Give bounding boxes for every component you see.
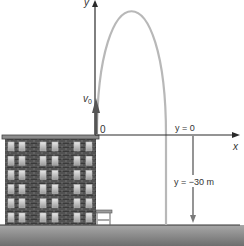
building-window	[86, 199, 92, 208]
ground	[0, 225, 244, 246]
y-axis-label: y	[83, 0, 90, 8]
building-window	[40, 170, 46, 179]
building-window	[8, 142, 14, 151]
building-window	[19, 199, 25, 208]
velocity-label: v0	[83, 93, 92, 105]
building-window	[86, 185, 92, 194]
bench	[96, 210, 112, 225]
building-window	[40, 185, 46, 194]
building-window	[52, 185, 58, 194]
building-window	[8, 213, 14, 222]
x-axis-label: x	[232, 141, 239, 152]
building-window	[8, 185, 14, 194]
building-window	[52, 142, 58, 151]
building-window	[86, 142, 92, 151]
building-window	[40, 156, 46, 165]
building-window	[86, 156, 92, 165]
building-window	[19, 170, 25, 179]
y-axis-arrowhead	[92, 0, 98, 7]
building-window	[8, 170, 14, 179]
building-window	[86, 170, 92, 179]
building-window	[74, 213, 80, 222]
origin-label: 0	[100, 124, 106, 135]
building	[2, 135, 99, 225]
building-window	[52, 213, 58, 222]
building-window	[74, 199, 80, 208]
building-window	[74, 170, 80, 179]
building-window	[8, 156, 14, 165]
depth-label: y = −30 m	[174, 177, 214, 187]
building-window	[52, 156, 58, 165]
building-window	[19, 185, 25, 194]
building-window	[19, 142, 25, 151]
building-window	[74, 185, 80, 194]
building-window	[86, 213, 92, 222]
x-axis-arrowhead	[232, 132, 240, 138]
building-window	[74, 156, 80, 165]
reference-line-label: y = 0	[175, 123, 195, 133]
building-window	[19, 156, 25, 165]
building-window	[19, 213, 25, 222]
building-window	[40, 213, 46, 222]
building-window	[40, 142, 46, 151]
building-window	[52, 170, 58, 179]
building-window	[74, 142, 80, 151]
projectile-diagram: y x v0 0 y = 0 y = −30 m	[0, 0, 244, 246]
building-window	[8, 199, 14, 208]
trajectory-curve	[97, 11, 166, 225]
building-window	[52, 199, 58, 208]
building-window	[40, 199, 46, 208]
x-axis	[95, 132, 240, 138]
roof-ledge	[2, 135, 99, 139]
